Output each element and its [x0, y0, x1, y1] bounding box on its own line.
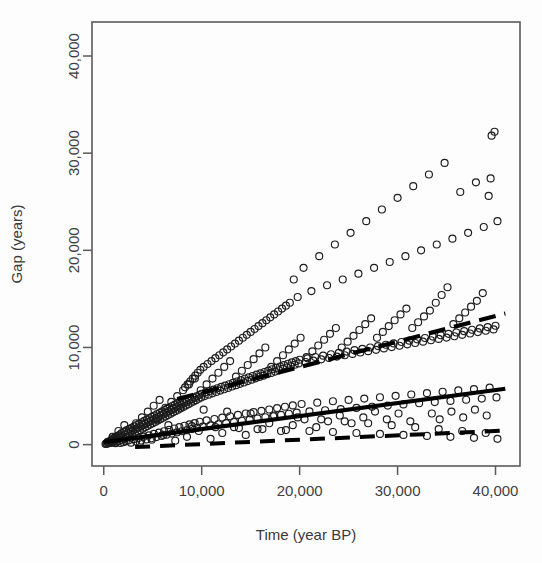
- data-point: [315, 342, 322, 349]
- data-point: [353, 429, 360, 436]
- data-point: [409, 325, 416, 332]
- data-point: [200, 406, 207, 413]
- data-point: [383, 416, 390, 423]
- data-point: [468, 303, 475, 310]
- data-point: [348, 420, 355, 427]
- y-tick-label: 0: [65, 440, 82, 448]
- y-axis-title: Gap (years): [8, 204, 25, 283]
- data-point: [374, 334, 381, 341]
- data-point: [282, 427, 289, 434]
- data-point: [473, 297, 480, 304]
- data-point: [480, 224, 487, 231]
- data-point: [308, 288, 315, 295]
- data-point: [318, 416, 325, 423]
- data-point: [355, 270, 362, 277]
- data-point: [289, 402, 296, 409]
- data-point: [479, 290, 486, 297]
- data-point: [350, 332, 357, 339]
- data-point: [426, 307, 433, 314]
- data-point: [376, 394, 383, 401]
- data-point: [250, 356, 257, 363]
- data-point: [460, 414, 467, 421]
- y-tick-label: 10,000: [65, 325, 82, 371]
- data-point: [345, 396, 352, 403]
- data-point: [232, 373, 239, 380]
- data-point: [344, 338, 351, 345]
- data-point: [432, 299, 439, 306]
- trend-line-dashed-lower-regression: [135, 431, 505, 448]
- data-point: [266, 406, 273, 413]
- data-point: [378, 206, 385, 213]
- data-point: [238, 367, 245, 374]
- data-point: [290, 276, 297, 283]
- data-point: [150, 402, 157, 409]
- data-point: [274, 405, 281, 412]
- data-point: [331, 241, 338, 248]
- data-point: [309, 348, 316, 355]
- data-point: [391, 317, 398, 324]
- data-point: [376, 430, 383, 437]
- data-point: [209, 375, 216, 382]
- data-point: [441, 159, 448, 166]
- x-axis-title: Time (year BP): [256, 526, 356, 543]
- data-point: [347, 229, 354, 236]
- data-point: [493, 394, 500, 401]
- data-point: [471, 406, 478, 413]
- data-point: [341, 418, 348, 425]
- data-point: [485, 192, 492, 199]
- data-point: [395, 410, 402, 417]
- data-point: [156, 396, 163, 403]
- data-point: [313, 424, 320, 431]
- data-point: [356, 326, 363, 333]
- data-point: [371, 264, 378, 271]
- scatter-points-layer: [102, 128, 501, 447]
- data-point: [368, 315, 375, 322]
- data-point: [363, 218, 370, 225]
- scatter-plot-figure: 010,00020,00030,00040,000 010,00020,0003…: [0, 0, 542, 563]
- data-point: [379, 328, 386, 335]
- data-point: [385, 323, 392, 330]
- data-point: [242, 431, 249, 438]
- data-point: [457, 189, 464, 196]
- x-tick-label: 20,000: [277, 482, 323, 499]
- data-point: [338, 344, 345, 351]
- data-point: [362, 321, 369, 328]
- data-point: [281, 403, 288, 410]
- data-point: [403, 305, 410, 312]
- data-point: [462, 309, 469, 316]
- data-point: [298, 401, 305, 408]
- data-point: [227, 358, 234, 365]
- data-point: [386, 258, 393, 265]
- x-tick-label: 10,000: [179, 482, 225, 499]
- data-point: [207, 435, 214, 442]
- data-point: [360, 414, 367, 421]
- data-point: [325, 418, 332, 425]
- data-point: [415, 319, 422, 326]
- data-point: [289, 422, 296, 429]
- data-point: [172, 437, 179, 444]
- data-point: [407, 418, 414, 425]
- data-point: [423, 390, 430, 397]
- data-point: [428, 410, 435, 417]
- data-point: [332, 325, 339, 332]
- data-point: [144, 408, 151, 415]
- data-point: [494, 218, 501, 225]
- data-point: [444, 284, 451, 291]
- data-point: [184, 433, 191, 440]
- data-point: [258, 407, 265, 414]
- data-point: [483, 412, 490, 419]
- data-point: [394, 194, 401, 201]
- data-point: [448, 408, 455, 415]
- data-point: [494, 435, 501, 442]
- data-point: [388, 422, 395, 429]
- data-point: [478, 395, 485, 402]
- data-point: [300, 264, 307, 271]
- data-point: [327, 330, 334, 337]
- data-point: [321, 336, 328, 343]
- y-tick-label: 40,000: [65, 33, 82, 79]
- data-point: [408, 391, 415, 398]
- y-axis-ticks: 010,00020,00030,00040,000: [65, 33, 92, 449]
- data-point: [294, 293, 301, 300]
- data-point: [215, 369, 222, 376]
- data-point: [433, 241, 440, 248]
